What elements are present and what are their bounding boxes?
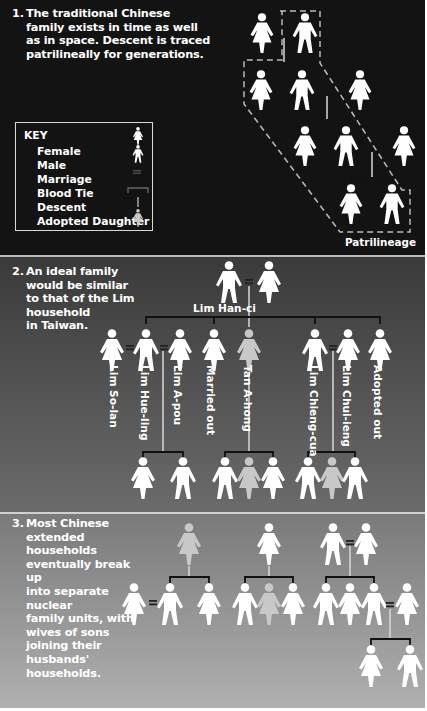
patrilineage-label: Patrilineage [345,236,416,248]
female-figure-icon [354,523,378,565]
female-figure-icon [133,127,143,145]
female-figure-icon [349,70,372,110]
member-label-lim-a-pou: Lim A-pou [172,365,184,425]
blood-tie-bracket [351,178,392,184]
male-figure-icon [170,457,196,499]
male-figure-icon [342,457,368,499]
male-figure-icon [157,583,183,625]
blood-tie-bracket [305,120,346,126]
male-figure-icon [293,13,318,53]
blood-tie-bracket [326,577,374,583]
female-figure-icon [281,583,305,625]
marriage-backdrop [244,277,254,286]
patrilineage-diagram [0,0,425,255]
male-figure-icon [232,583,258,625]
blood-tie-bracket [245,577,293,583]
member-label-lim-chieng-cua: Lim Chieng-cua [308,365,320,457]
male-figure-icon [295,457,321,499]
female-figure-icon [257,261,281,303]
male-figure-icon [313,583,339,625]
female-figure-icon [261,457,285,499]
marriage-equals-icon [346,540,354,545]
female-figure-icon [177,523,201,565]
female-figure-icon [294,126,317,166]
female-figure-icon [131,457,155,499]
female-figure-icon [250,70,273,110]
male-figure-icon [320,523,346,565]
female-figure-icon [257,583,281,625]
panel-lim-household: 2. An ideal family would be similar to t… [0,257,425,514]
household-breakup-diagram [0,514,425,708]
lim-han-ci-label: Lim Han-ci [193,302,256,314]
male-figure-icon [133,145,144,163]
female-figure-icon [393,126,416,166]
marriage-equals-icon [245,279,253,284]
female-figure-icon [257,523,281,565]
equals-sign-icon [133,170,141,171]
bracket-line-icon [128,188,148,193]
member-label-tan-a-hong: Tan A-hong [242,365,254,432]
adopted-daughter-icon [133,209,143,227]
marriage-equals-icon [149,600,157,605]
member-label-adopted-out: Adopted out [372,365,384,439]
female-figure-icon [122,583,146,625]
female-figure-icon [251,13,274,53]
equals-sign-icon [133,173,141,174]
female-figure-icon [237,457,261,499]
marriage-equals-icon [386,602,394,607]
male-figure-icon [397,645,423,687]
member-label-married-out: Married out [205,365,217,435]
female-figure-icon [197,583,221,625]
female-figure-icon [320,457,344,499]
member-label-lim-hue-ling: Lim Hue-ling [139,365,151,441]
male-figure-icon [212,457,238,499]
member-label-lim-so-lan: Lim So-lan [108,365,120,428]
male-figure-icon [290,70,315,110]
panel-patrilineage: 1. The traditional Chinese family exists… [0,0,425,257]
female-figure-icon [395,583,419,625]
marriage-equals-icon [329,345,337,350]
blood-tie-bracket [225,452,273,458]
female-figure-icon [338,583,362,625]
male-figure-icon [334,126,359,166]
blood-tie-bracket [371,639,410,645]
panel-household-breakup: 3. Most Chinese extended households even… [0,514,425,708]
male-figure-icon [361,583,387,625]
member-label-lim-chui-ieng: Lim Chui-ieng [341,365,353,447]
female-figure-icon [359,645,383,687]
blood-tie-bracket [170,577,209,583]
infographic: 1. The traditional Chinese family exists… [0,0,425,708]
male-figure-icon [216,261,242,303]
male-figure-icon [380,184,405,224]
marriage-equals-icon [160,345,168,350]
blood-tie-bracket [146,317,380,324]
marriage-equals-icon [126,345,134,350]
blood-tie-bracket [143,452,183,458]
female-figure-icon [340,184,363,224]
